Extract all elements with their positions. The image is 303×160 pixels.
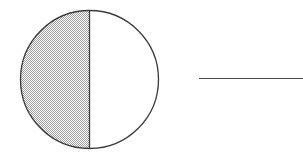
figure-canvas: Half-shaded circle with adjacent horizon… xyxy=(0,0,303,160)
figure-svg: Half-shaded circle with adjacent horizon… xyxy=(0,0,303,160)
